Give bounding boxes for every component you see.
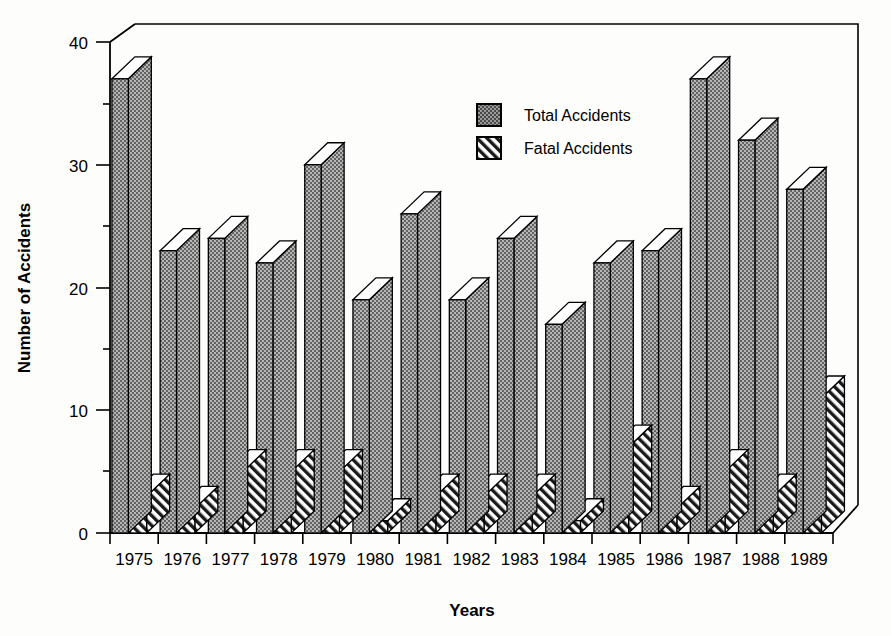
x-tick-label-1981: 1981 [404,550,442,569]
x-axis-title: Years [449,601,494,620]
y-axis: 0 10 20 30 40 [69,34,110,544]
bar-side [369,278,392,533]
bar-total-1987 [690,57,729,533]
x-tick-label-1989: 1989 [790,550,828,569]
x-tick-label-1979: 1979 [308,550,346,569]
x-tick-label-1988: 1988 [742,550,780,569]
bar-side [418,192,441,533]
bar-face [112,79,128,533]
x-tick-label-1976: 1976 [163,550,201,569]
bar-side [128,57,151,533]
bar-chart-figure: 0 10 20 30 40 Number of Accidents 197519… [0,0,891,636]
bar-side [466,278,489,533]
chart-svg: 0 10 20 30 40 Number of Accidents 197519… [0,0,891,636]
x-tick-label-1984: 1984 [549,550,587,569]
x-tick-label-1975: 1975 [115,550,153,569]
x-tick-label-1985: 1985 [597,550,635,569]
x-tick-label-1982: 1982 [453,550,491,569]
bar-total-1975 [112,57,151,533]
bar-total-1985 [594,241,633,533]
bar-side [225,216,248,533]
bar-side [707,57,730,533]
bar-side [562,302,585,533]
stipple-swatch [477,104,501,126]
x-tick-label-1978: 1978 [260,550,298,569]
legend-entry-fatal: Fatal Accidents [477,137,633,159]
y-tick-label-30: 30 [69,157,88,176]
legend-label-total: Total Accidents [524,107,631,124]
bar-face [690,79,706,533]
y-tick-label-10: 10 [69,402,88,421]
bar-side [514,216,537,533]
bar-side [177,229,200,533]
y-tick-label-0: 0 [79,525,88,544]
bar-side [610,241,633,533]
bar-face [401,214,417,533]
bar-side [803,167,826,533]
x-tick-label-1980: 1980 [356,550,394,569]
x-tick-label-1986: 1986 [645,550,683,569]
bar-total-1977 [208,216,247,533]
bar-side [659,229,682,533]
x-tick-label-1983: 1983 [501,550,539,569]
legend-entry-total: Total Accidents [477,104,631,126]
legend: Total Accidents Fatal Accidents [477,104,633,159]
hatch-swatch [477,137,501,159]
bar-side [321,143,344,533]
bar-side [273,241,296,533]
bar-side [755,118,778,533]
x-tick-label-1977: 1977 [212,550,250,569]
y-axis-title: Number of Accidents [15,203,34,373]
y-tick-major [96,42,110,533]
x-axis: 1975197619771978197919801981198219831984… [110,533,833,569]
x-tick-label-1987: 1987 [694,550,732,569]
y-tick-label-20: 20 [69,280,88,299]
bar-total-1981 [401,192,440,533]
y-tick-label-40: 40 [69,34,88,53]
legend-label-fatal: Fatal Accidents [524,140,633,157]
bar-face [594,263,610,533]
bar-group [112,57,845,533]
